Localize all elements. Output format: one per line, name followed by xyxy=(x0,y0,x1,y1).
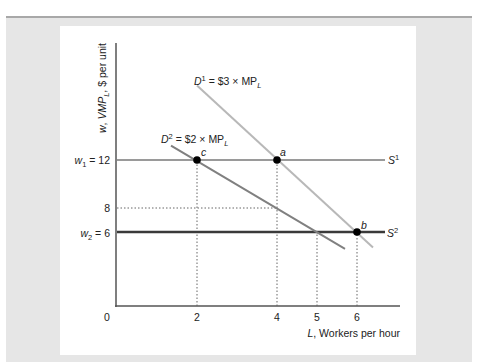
series-line-d1 xyxy=(197,86,373,248)
point-c-label: c xyxy=(201,146,207,158)
x-tick-6: 6 xyxy=(354,311,360,323)
s2-label: S2 xyxy=(387,226,398,239)
point-c xyxy=(193,156,201,164)
y-tick-w1: w1 = 12 xyxy=(75,154,111,169)
y-tick-w2: w2 = 6 xyxy=(80,227,110,242)
y-tick-8: 8 xyxy=(104,202,110,214)
x-tick-2: 2 xyxy=(194,311,200,323)
point-b-label: b xyxy=(361,219,367,231)
point-b xyxy=(353,228,361,236)
x-axis-label: L, Workers per hour xyxy=(307,327,400,339)
x-tick-4: 4 xyxy=(274,311,280,323)
x-tick-0: 0 xyxy=(104,311,110,323)
s1-label: S1 xyxy=(388,153,399,166)
series-lines xyxy=(117,86,385,249)
point-a-label: a xyxy=(280,146,286,158)
x-tick-5: 5 xyxy=(314,311,320,323)
y-axis-label: w, VMPL, $ per unit xyxy=(96,43,111,133)
d1-label: D1 = $3 × MPL xyxy=(194,74,261,90)
